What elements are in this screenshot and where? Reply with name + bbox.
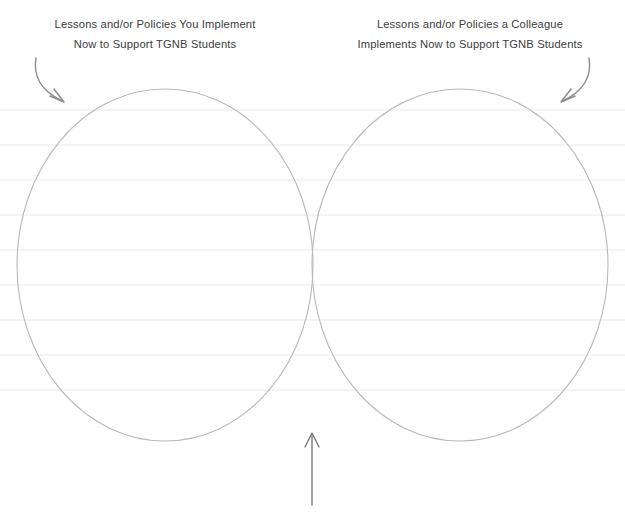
venn-diagram-worksheet: Lessons and/or Policies You Implement No… bbox=[0, 0, 625, 519]
straight-arrow-up bbox=[305, 433, 319, 505]
right-circle[interactable] bbox=[312, 89, 608, 441]
curved-arrow-left bbox=[35, 58, 64, 102]
venn-diagram-graphics bbox=[0, 0, 625, 519]
left-circle[interactable] bbox=[17, 89, 313, 441]
venn-circles-group bbox=[17, 89, 608, 441]
curved-arrow-right bbox=[561, 58, 590, 102]
